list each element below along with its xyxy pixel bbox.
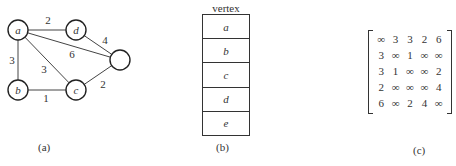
graph-caption: (a) bbox=[38, 141, 50, 153]
node-e bbox=[110, 50, 130, 70]
graph-panel: 2336412adbc bbox=[0, 0, 160, 166]
left-bracket bbox=[368, 30, 373, 114]
matrix-cell: 4 bbox=[432, 79, 446, 95]
vertex-row: c bbox=[203, 63, 249, 87]
vertex-row: e bbox=[203, 112, 249, 135]
right-bracket bbox=[447, 30, 452, 114]
vertex-row: a bbox=[203, 15, 249, 39]
vertex-table: a b c d e bbox=[202, 14, 250, 136]
matrix-cell: ∞ bbox=[417, 47, 431, 63]
matrix-cell: ∞ bbox=[403, 63, 417, 79]
matrix-cell: 6 bbox=[432, 31, 446, 47]
node-label: c bbox=[74, 84, 79, 96]
edge-weight-label: 1 bbox=[43, 92, 49, 104]
edge-a-c bbox=[25, 37, 69, 83]
node-label: d bbox=[73, 24, 79, 36]
matrix-caption: (c) bbox=[413, 144, 425, 156]
edge-weight-label: 4 bbox=[102, 34, 108, 46]
matrix-grid: ∞33263∞1∞∞31∞∞22∞∞∞46∞24∞ bbox=[374, 31, 446, 111]
edge-weight-label: 6 bbox=[69, 48, 75, 60]
vertex-row: d bbox=[203, 88, 249, 112]
weighted-graph-diagram: 2336412adbc bbox=[0, 0, 160, 130]
matrix-cell: 1 bbox=[403, 47, 417, 63]
matrix-cell: ∞ bbox=[374, 31, 388, 47]
vertex-table-title: vertex bbox=[202, 2, 250, 14]
vertex-table-caption: (b) bbox=[216, 141, 229, 153]
matrix-cell: 2 bbox=[417, 31, 431, 47]
matrix-cell: ∞ bbox=[417, 79, 431, 95]
matrix-cell: 3 bbox=[388, 31, 402, 47]
matrix-cell: ∞ bbox=[432, 47, 446, 63]
matrix-cell: ∞ bbox=[388, 95, 402, 111]
edge-weight-label: 2 bbox=[45, 14, 51, 26]
matrix-cell: 3 bbox=[403, 31, 417, 47]
matrix-cell: 3 bbox=[374, 47, 388, 63]
matrix-cell: 2 bbox=[374, 79, 388, 95]
edge-weight-label: 3 bbox=[9, 54, 15, 66]
matrix-cell: ∞ bbox=[388, 79, 402, 95]
matrix-cell: 3 bbox=[374, 63, 388, 79]
matrix-cell: 2 bbox=[403, 95, 417, 111]
vertex-row: b bbox=[203, 39, 249, 63]
matrix-cell: ∞ bbox=[417, 63, 431, 79]
node-label: b bbox=[15, 84, 21, 96]
matrix-cell: 6 bbox=[374, 95, 388, 111]
matrix-cell: ∞ bbox=[403, 79, 417, 95]
matrix-cell: ∞ bbox=[388, 47, 402, 63]
matrix-cell: 2 bbox=[432, 63, 446, 79]
edge-weight-label: 3 bbox=[41, 63, 47, 75]
matrix-cell: ∞ bbox=[432, 95, 446, 111]
node-label: a bbox=[15, 24, 21, 36]
edge-c-e bbox=[84, 66, 111, 85]
matrix-cell: 4 bbox=[417, 95, 431, 111]
edge-weight-label: 2 bbox=[100, 78, 106, 90]
matrix-cell: 1 bbox=[388, 63, 402, 79]
adjacency-matrix: ∞33263∞1∞∞31∞∞22∞∞∞46∞24∞ bbox=[368, 30, 452, 112]
